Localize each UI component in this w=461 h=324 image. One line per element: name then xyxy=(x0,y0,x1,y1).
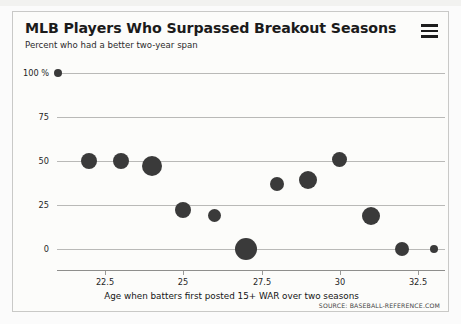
y-tick-label: 75 xyxy=(15,112,49,122)
y-tick-label: 0 xyxy=(15,244,49,254)
y-tick-label: 50 xyxy=(15,156,49,166)
x-tick-label: 25 xyxy=(178,277,188,287)
x-tick-mark xyxy=(340,271,341,275)
data-point[interactable] xyxy=(362,207,380,225)
y-tick-label: 25 xyxy=(15,200,49,210)
scatter-plot: 0255075100 %22.52527.53032.5 xyxy=(13,12,450,313)
source-note: SOURCE: BASEBALL-REFERENCE.COM xyxy=(319,302,440,309)
x-tick-label: 32.5 xyxy=(409,277,427,287)
data-point[interactable] xyxy=(270,177,284,191)
x-axis-title: Age when batters first posted 15+ WAR ov… xyxy=(13,291,450,301)
data-point[interactable] xyxy=(299,171,317,189)
chart-card: MLB Players Who Surpassed Breakout Seaso… xyxy=(12,11,449,312)
page-top-strip xyxy=(0,0,461,6)
data-point[interactable] xyxy=(113,153,129,169)
x-tick-mark xyxy=(105,271,106,275)
gridline-y-100 xyxy=(57,73,445,74)
data-point[interactable] xyxy=(81,153,97,169)
x-axis-line xyxy=(57,270,445,271)
y-tick-label: 100 % xyxy=(15,68,49,78)
data-point[interactable] xyxy=(332,152,347,167)
x-tick-label: 27.5 xyxy=(253,277,271,287)
data-point[interactable] xyxy=(395,242,409,256)
screenshot-root: MLB Players Who Surpassed Breakout Seaso… xyxy=(0,0,461,324)
data-point[interactable] xyxy=(54,69,62,77)
data-point[interactable] xyxy=(208,209,221,222)
x-tick-mark xyxy=(418,271,419,275)
data-point[interactable] xyxy=(142,156,162,176)
x-tick-label: 22.5 xyxy=(96,277,114,287)
data-point[interactable] xyxy=(430,245,438,253)
gridline-y-75 xyxy=(57,117,445,118)
data-point[interactable] xyxy=(235,238,257,260)
x-tick-label: 30 xyxy=(335,277,345,287)
x-tick-mark xyxy=(183,271,184,275)
x-tick-mark xyxy=(262,271,263,275)
gridline-y-25 xyxy=(57,205,445,206)
data-point[interactable] xyxy=(175,202,191,218)
